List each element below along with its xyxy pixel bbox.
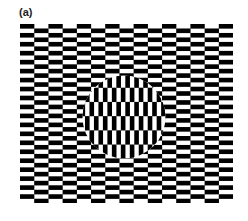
ouchi-illusion-figure (0, 0, 248, 221)
illusion-canvas (0, 0, 248, 221)
